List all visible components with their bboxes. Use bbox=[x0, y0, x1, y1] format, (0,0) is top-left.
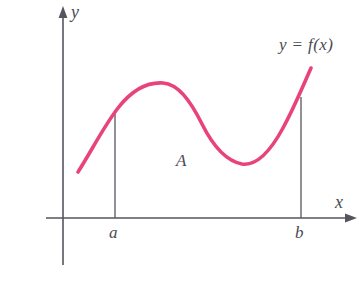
right-bound-label-b: b bbox=[295, 224, 304, 241]
x-axis-label: x bbox=[335, 193, 343, 211]
y-axis-arrow-icon bbox=[59, 6, 68, 18]
area-label: A bbox=[176, 152, 186, 169]
y-axis-label: y bbox=[71, 3, 79, 21]
left-bound-label-a: a bbox=[109, 224, 118, 241]
function-curve bbox=[78, 68, 311, 172]
area-under-curve-figure: y x a b A y = f(x) bbox=[0, 0, 359, 282]
x-axis-arrow-icon bbox=[345, 214, 357, 223]
function-label: y = f(x) bbox=[279, 36, 333, 53]
